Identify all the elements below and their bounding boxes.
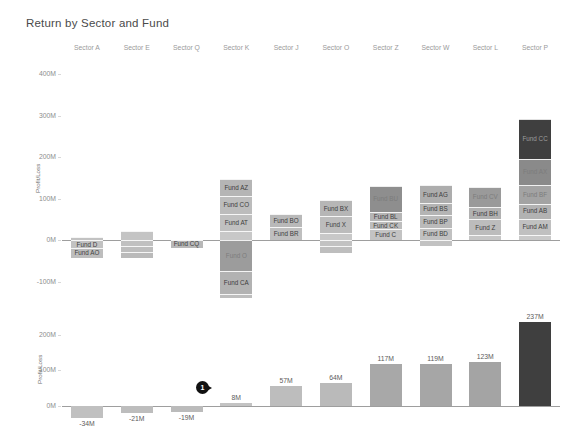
fund-segment-label: Fund AZ — [224, 185, 248, 191]
fund-segment-label: Fund BH — [473, 211, 498, 217]
fund-segment-label: Fund AO — [74, 250, 99, 256]
total-bar-a[interactable] — [71, 406, 103, 418]
fund-segment-label: Fund BL — [374, 214, 398, 220]
fund-segment[interactable] — [469, 235, 501, 240]
stacked-bar-k[interactable]: Fund ATFund COFund AZFund OFund CA — [220, 62, 252, 294]
fund-segment-label: Fund BX — [324, 206, 349, 212]
y-tick-mark-bottom — [58, 406, 61, 407]
fund-segment[interactable]: Fund BO — [270, 214, 302, 226]
fund-segment[interactable]: Fund AT — [220, 214, 252, 231]
fund-segment[interactable]: Fund C — [370, 229, 402, 240]
fund-segment-label: Fund D — [77, 242, 98, 248]
fund-segment[interactable]: Fund BL — [370, 212, 402, 221]
fund-segment-label: Fund AT — [225, 220, 248, 226]
y-tick-label-top: 100M — [22, 195, 56, 202]
fund-segment[interactable] — [220, 294, 252, 298]
fund-segment[interactable]: Fund BP — [420, 215, 452, 227]
y-tick-mark-top — [58, 116, 61, 117]
total-bar-value-label: 119M — [411, 355, 461, 362]
fund-segment[interactable] — [320, 233, 352, 240]
fund-segment[interactable]: Fund O — [220, 240, 252, 271]
total-bar-value-label: 57M — [261, 377, 311, 384]
fund-segment[interactable] — [220, 231, 252, 240]
fund-segment[interactable]: Fund BD — [420, 228, 452, 240]
stacked-bar-e[interactable] — [121, 62, 153, 294]
fund-segment[interactable]: Fund BS — [420, 203, 452, 215]
fund-segment-label: Fund BD — [423, 231, 448, 237]
fund-segment-label: Fund CV — [473, 194, 498, 200]
stacked-bar-j[interactable]: Fund BRFund BO — [270, 62, 302, 294]
y-tick-label-top: 0M — [22, 236, 56, 243]
fund-segment-label: Fund BF — [523, 192, 547, 198]
fund-segment[interactable]: Fund CC — [519, 119, 551, 159]
total-bar-value-label: 64M — [311, 374, 361, 381]
fund-segment-label: Fund CK — [373, 223, 398, 229]
stacked-bar-p[interactable]: Fund AMFund ABFund BFFund AXFund CC — [519, 62, 551, 294]
fund-segment[interactable]: Fund CA — [220, 271, 252, 294]
stacked-bar-z[interactable]: Fund CFund CKFund BLFund BU — [370, 62, 402, 294]
total-bar-j[interactable] — [270, 386, 302, 406]
fund-segment[interactable]: Fund CO — [220, 196, 252, 213]
fund-segment[interactable] — [121, 231, 153, 240]
fund-segment[interactable]: Fund BF — [519, 185, 551, 204]
y-tick-mark-bottom — [58, 370, 61, 371]
fund-segment[interactable]: Fund CV — [469, 187, 501, 207]
fund-segment[interactable]: Fund CK — [370, 221, 402, 229]
fund-segment[interactable]: Fund BR — [270, 227, 302, 240]
y-tick-label-bottom: 0M — [22, 402, 56, 409]
fund-segment[interactable]: Fund D — [71, 240, 103, 248]
fund-segment[interactable]: Fund Z — [469, 219, 501, 235]
sector-header-p: Sector P — [505, 44, 565, 51]
total-bar-k[interactable] — [220, 403, 252, 406]
fund-segment-label: Fund BP — [423, 219, 448, 225]
total-bar-l[interactable] — [469, 362, 501, 406]
total-bar-e[interactable] — [121, 406, 153, 413]
fund-segment-label: Fund BU — [373, 196, 398, 202]
fund-segment[interactable]: Fund AX — [519, 159, 551, 185]
total-bar-w[interactable] — [420, 364, 452, 406]
fund-segment-label: Fund BO — [273, 218, 298, 224]
fund-segment-label: Fund CA — [224, 280, 249, 286]
fund-segment[interactable]: Fund AO — [71, 248, 103, 257]
fund-segment[interactable] — [420, 240, 452, 246]
cursor-step-number: 1 — [196, 381, 209, 394]
fund-segment[interactable]: Fund AZ — [220, 179, 252, 196]
fund-segment[interactable] — [519, 235, 551, 240]
total-bar-q[interactable] — [171, 406, 203, 413]
fund-segment-label: Fund X — [326, 222, 346, 228]
fund-segment[interactable] — [121, 252, 153, 258]
fund-segment-label: Fund AG — [423, 192, 448, 198]
y-tick-label-top: 400M — [22, 70, 56, 77]
fund-segment-label: Fund O — [226, 253, 247, 259]
fund-segment-label: Fund CO — [224, 202, 250, 208]
y-tick-mark-top — [58, 74, 61, 75]
fund-segment[interactable] — [320, 246, 352, 253]
y-tick-mark-top — [58, 282, 61, 283]
fund-segment-label: Fund AB — [523, 208, 547, 214]
fund-segment[interactable]: Fund AG — [420, 185, 452, 202]
y-tick-label-top: -100M — [22, 278, 56, 285]
fund-segment[interactable]: Fund BH — [469, 207, 501, 219]
stacked-bar-a[interactable]: Fund DFund AO — [71, 62, 103, 294]
fund-segment-label: Fund BS — [423, 206, 448, 212]
fund-segment[interactable]: Fund X — [320, 216, 352, 233]
stacked-fund-breakdown-panel: Fund DFund AOFund CQFund ATFund COFund A… — [62, 62, 560, 294]
total-bar-value-label: -34M — [62, 420, 112, 427]
total-bar-z[interactable] — [370, 364, 402, 405]
stacked-bar-l[interactable]: Fund ZFund BHFund CV — [469, 62, 501, 294]
stacked-bar-o[interactable]: Fund XFund BX — [320, 62, 352, 294]
y-tick-mark-top — [58, 157, 61, 158]
fund-segment[interactable]: Fund AB — [519, 204, 551, 219]
fund-segment[interactable]: Fund AM — [519, 219, 551, 236]
stacked-bar-q[interactable]: Fund CQ — [171, 62, 203, 294]
fund-segment-label: Fund CC — [522, 136, 547, 142]
fund-segment[interactable]: Fund CQ — [171, 240, 203, 248]
y-tick-mark-top — [58, 199, 61, 200]
fund-segment[interactable]: Fund BU — [370, 186, 402, 212]
stacked-bar-w[interactable]: Fund BDFund BPFund BSFund AG — [420, 62, 452, 294]
fund-segment[interactable]: Fund BX — [320, 200, 352, 216]
total-bar-p[interactable] — [519, 322, 551, 406]
total-bar-o[interactable] — [320, 383, 352, 406]
y-axis-title-bottom: Profit/Loss — [36, 355, 43, 384]
total-bar-value-label: 8M — [211, 394, 261, 401]
